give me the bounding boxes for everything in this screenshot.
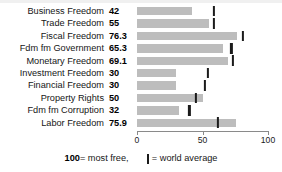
row-plot-area (137, 117, 268, 129)
score-bar (137, 81, 176, 89)
row-label: Labor Freedom (0, 117, 104, 129)
row-label: Fiscal Freedom (0, 30, 104, 42)
world-average-marker (207, 68, 209, 79)
row-value: 30 (109, 79, 133, 91)
chart-row: Labor Freedom75.9 (0, 117, 282, 129)
row-plot-area (137, 79, 268, 91)
row-value: 42 (109, 5, 133, 17)
axis-tick (137, 131, 138, 135)
row-label: Fdm fm Government (0, 42, 104, 54)
score-bar (137, 69, 176, 77)
world-average-marker (217, 117, 219, 128)
score-bar (137, 32, 237, 40)
world-average-marker (242, 31, 244, 42)
row-plot-area (137, 92, 268, 104)
row-label: Financial Freedom (0, 79, 104, 91)
score-bar (137, 44, 223, 52)
score-bar (137, 57, 228, 65)
axis-tick-label: 100 (261, 135, 275, 145)
row-plot-area (137, 30, 268, 42)
chart-row: Business Freedom42 (0, 5, 282, 17)
world-average-marker (195, 93, 197, 104)
chart-row: Financial Freedom30 (0, 79, 282, 91)
row-label: Monetary Freedom (0, 55, 104, 67)
row-label: Trade Freedom (0, 17, 104, 29)
row-value: 30 (109, 67, 133, 79)
world-average-marker (230, 43, 232, 54)
chart-legend: 100 = most free, = world average (0, 152, 282, 165)
row-label: Fdm fm Corruption (0, 104, 104, 116)
world-average-tick-icon (147, 154, 149, 164)
axis-tick (203, 131, 204, 135)
freedom-index-chart: Business Freedom42Trade Freedom55Fiscal … (0, 0, 282, 172)
row-plot-area (137, 55, 268, 67)
row-value: 65.3 (109, 42, 133, 54)
row-plot-area (137, 104, 268, 116)
score-bar (137, 94, 203, 102)
row-value: 55 (109, 17, 133, 29)
row-value: 76.3 (109, 30, 133, 42)
chart-row: Fiscal Freedom76.3 (0, 30, 282, 42)
score-bar (137, 106, 179, 114)
row-value: 69.1 (109, 55, 133, 67)
chart-row: Fdm fm Government65.3 (0, 42, 282, 54)
axis-tick-label: 0 (135, 135, 140, 145)
row-plot-area (137, 5, 268, 17)
world-average-marker (213, 6, 215, 17)
row-plot-area (137, 67, 268, 79)
legend-most-free-text: = most free, (80, 152, 129, 165)
axis-tick-label: 50 (198, 135, 208, 145)
chart-row: Trade Freedom55 (0, 17, 282, 29)
chart-row: Property Rights50 (0, 92, 282, 104)
score-bar (137, 119, 236, 127)
axis-tick (268, 131, 269, 135)
chart-rows: Business Freedom42Trade Freedom55Fiscal … (0, 5, 282, 129)
row-label: Business Freedom (0, 5, 104, 17)
chart-row: Fdm fm Corruption32 (0, 104, 282, 116)
legend-most-free-number: 100 (65, 152, 80, 165)
row-label: Property Rights (0, 92, 104, 104)
world-average-marker (213, 18, 215, 29)
row-value: 32 (109, 104, 133, 116)
world-average-marker (204, 80, 206, 91)
top-edge-band (0, 0, 282, 3)
row-plot-area (137, 42, 268, 54)
world-average-marker (188, 105, 190, 116)
world-average-marker (232, 55, 234, 66)
chart-row: Monetary Freedom69.1 (0, 55, 282, 67)
row-value: 50 (109, 92, 133, 104)
score-bar (137, 19, 209, 27)
row-value: 75.9 (109, 117, 133, 129)
score-bar (137, 7, 192, 15)
legend-world-average-text: = world average (152, 152, 218, 165)
row-label: Investment Freedom (0, 67, 104, 79)
row-plot-area (137, 17, 268, 29)
chart-row: Investment Freedom30 (0, 67, 282, 79)
